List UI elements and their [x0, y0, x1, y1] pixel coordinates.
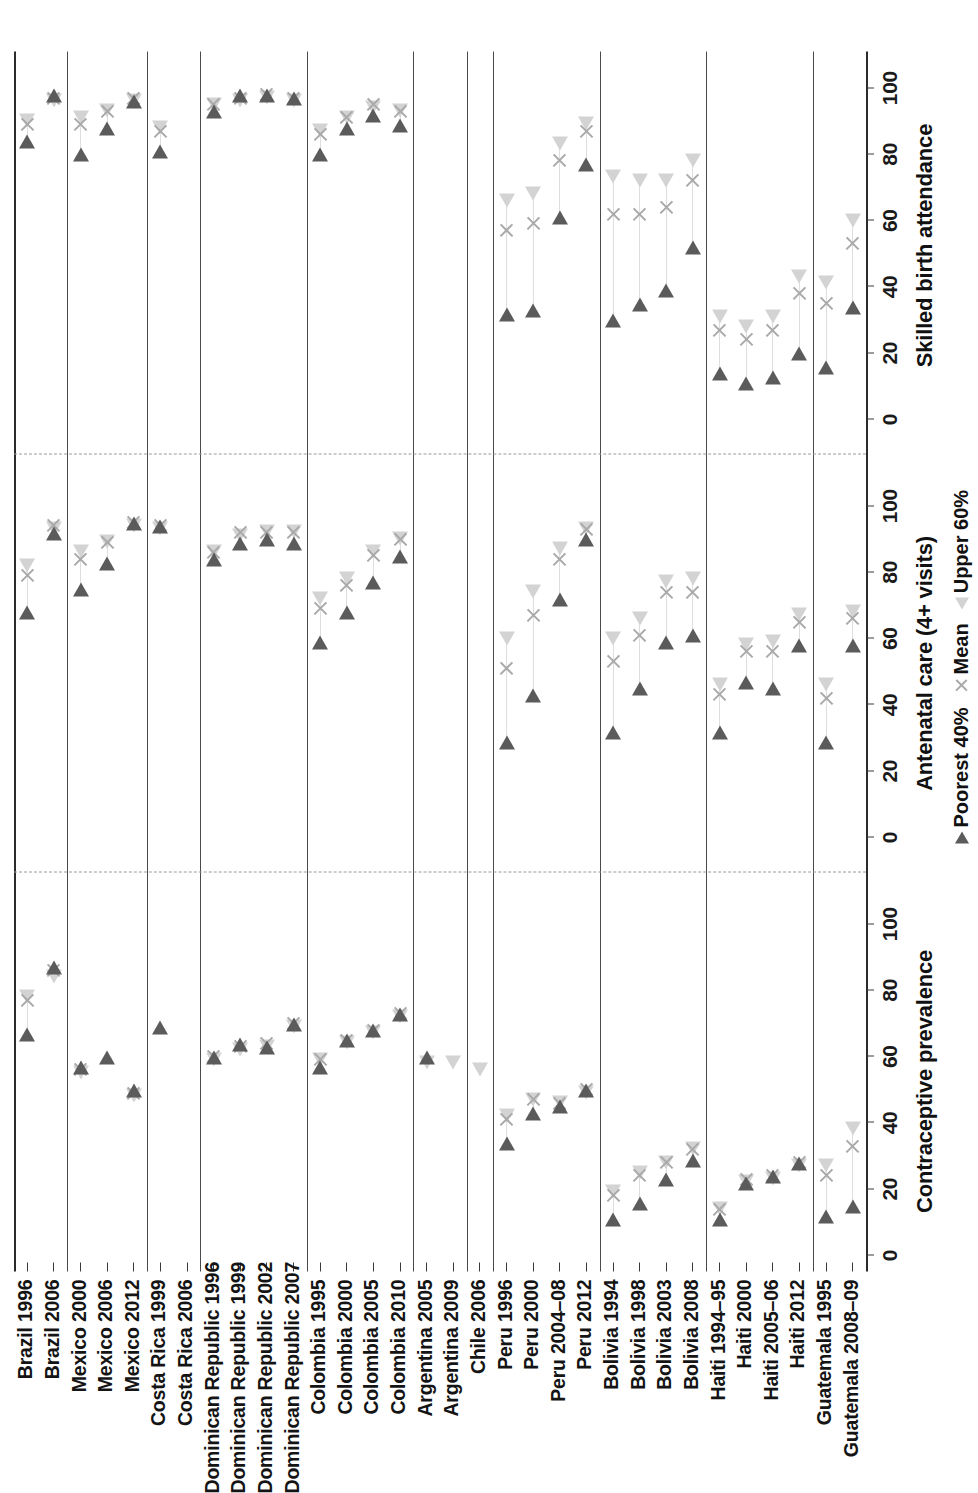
mean-marker [525, 1091, 542, 1108]
poorest40-marker [552, 592, 568, 606]
mean-marker [19, 116, 36, 133]
value-axis-tick-label: 20 [878, 327, 902, 379]
poorest40-marker [738, 675, 754, 689]
mean-marker [312, 125, 329, 142]
range-connector [692, 154, 693, 253]
row-label: Guatemala 1995 [813, 1279, 836, 1493]
poorest40-marker [365, 1023, 381, 1037]
range-connector [826, 277, 827, 373]
row-tick [852, 1262, 853, 1271]
value-axis-tick [867, 285, 874, 286]
upper60-marker [605, 631, 621, 645]
row-label: Brazil 1996 [14, 1279, 37, 1493]
poorest40-marker [339, 121, 355, 135]
legend-label-mean: Mean [950, 623, 973, 674]
row-label: Haiti 2000 [733, 1279, 756, 1493]
poorest40-marker [259, 88, 275, 102]
row-tick [320, 1262, 321, 1271]
poorest40-marker [525, 303, 541, 317]
upper60-marker [845, 1121, 861, 1135]
legend-label-poorest: Poorest 40% [950, 707, 973, 827]
upper60-marker [445, 1055, 461, 1069]
row-tick [826, 1262, 827, 1271]
poorest40-marker [499, 1136, 515, 1150]
value-axis-tick [867, 418, 874, 419]
poorest40-marker [312, 148, 328, 162]
poorest40-marker [259, 1040, 275, 1054]
row-label: Peru 2000 [520, 1279, 543, 1493]
mean-marker [844, 610, 861, 627]
poorest40-marker [499, 307, 515, 321]
value-axis-tick-label: 40 [878, 1096, 902, 1148]
poorest40-marker [738, 1176, 754, 1190]
mean-marker [631, 1167, 648, 1184]
mean-marker [525, 215, 542, 232]
mean-marker [72, 550, 89, 567]
poorest40-marker [259, 532, 275, 546]
legend-item-upper: Upper 60% [950, 489, 973, 608]
poorest40-marker [19, 605, 35, 619]
row-tick [533, 1262, 534, 1271]
poorest40-marker [46, 960, 62, 974]
value-axis-tick [867, 770, 874, 771]
row-tick [772, 1262, 773, 1271]
poorest40-marker [46, 88, 62, 102]
value-axis-tick [867, 1254, 874, 1255]
plot-frame-line [866, 51, 868, 1271]
poorest40-marker [818, 735, 834, 749]
range-connector [852, 214, 853, 313]
value-axis-tick [867, 87, 874, 88]
row-label: Colombia 2000 [334, 1279, 357, 1493]
mean-marker [72, 116, 89, 133]
mean-marker [498, 222, 515, 239]
value-axis-tick-label: 60 [878, 1030, 902, 1082]
mean-marker [818, 689, 835, 706]
mean-marker [791, 613, 808, 630]
group-separator [67, 51, 68, 1271]
upper60-marker [658, 173, 674, 187]
row-label: Colombia 2010 [387, 1279, 410, 1493]
row-tick [107, 1262, 108, 1271]
upper60-marker [791, 269, 807, 283]
row-tick [639, 1262, 640, 1271]
mean-marker [684, 583, 701, 600]
value-axis-tick-label: 80 [878, 128, 902, 180]
mean-marker [392, 102, 409, 119]
poorest40-marker [791, 638, 807, 652]
mean-marker [605, 653, 622, 670]
upper60-marker [738, 319, 754, 333]
mean-marker [392, 530, 409, 547]
panel-title: Skilled birth attendance [912, 25, 938, 465]
poorest40-marker [152, 1020, 168, 1034]
mean-marker [818, 295, 835, 312]
upper60-marker [632, 611, 648, 625]
upper60-icon [955, 597, 969, 609]
poorest40-marker [99, 1050, 115, 1064]
value-axis-tick [867, 219, 874, 220]
poorest40-marker [765, 682, 781, 696]
poorest40-marker [232, 88, 248, 102]
rotated-canvas: Brazil 1996Brazil 2006Mexico 2000Mexico … [0, 0, 978, 1493]
group-separator [493, 51, 494, 1271]
poorest40-marker [286, 1017, 302, 1031]
poorest40-marker [339, 605, 355, 619]
value-axis-tick-label: 60 [878, 194, 902, 246]
poorest40-marker [845, 638, 861, 652]
mean-marker [605, 1187, 622, 1204]
poorest40-marker [126, 94, 142, 108]
mean-marker [498, 659, 515, 676]
upper60-marker [818, 677, 834, 691]
row-tick [666, 1262, 667, 1271]
row-tick [719, 1262, 720, 1271]
value-axis-tick-label: 0 [878, 811, 902, 863]
value-axis-tick [867, 637, 874, 638]
mean-marker [152, 122, 169, 139]
mean-marker [711, 686, 728, 703]
poorest40-marker [632, 297, 648, 311]
poorest40-marker [73, 148, 89, 162]
value-axis-tick-label: 100 [878, 480, 902, 532]
range-connector [613, 170, 614, 326]
mean-marker [658, 198, 675, 215]
group-separator [413, 51, 414, 1271]
row-label: Dominican Republic 2007 [281, 1279, 304, 1493]
